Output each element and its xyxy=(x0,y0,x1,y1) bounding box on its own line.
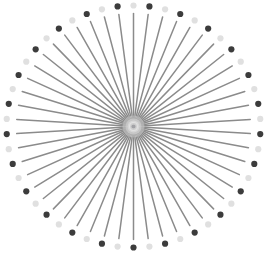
spoke-dot-light xyxy=(217,35,223,41)
spoke-dot-light xyxy=(146,243,152,249)
spoke-dot-dark xyxy=(43,212,49,218)
spoke-dot-light xyxy=(23,59,29,65)
spoke-dot-dark xyxy=(245,72,251,78)
spoke-dot-dark xyxy=(84,11,90,17)
spoke-dot-dark xyxy=(23,188,29,194)
spoke-dot-dark xyxy=(15,72,21,78)
spoke-dot-dark xyxy=(205,26,211,32)
spoke-dot-light xyxy=(130,2,136,8)
spoke-dot-light xyxy=(245,175,251,181)
spoke-dot-light xyxy=(56,221,62,227)
spoke-dot-light xyxy=(251,86,257,92)
spoke-dot-light xyxy=(257,116,263,122)
spoke-dot-dark xyxy=(99,241,105,247)
spoke-dot-light xyxy=(69,17,75,23)
spoke-dot-light xyxy=(114,243,120,249)
spoke-dot-dark xyxy=(251,161,257,167)
spoke-dot-light xyxy=(33,201,39,207)
spoke-dot-dark xyxy=(69,229,75,235)
spoke-dot-dark xyxy=(217,212,223,218)
spoke-dot-light xyxy=(84,236,90,242)
spoke-dot-light xyxy=(255,146,261,152)
center-convergence-dot xyxy=(131,124,135,128)
spoke-dot-dark xyxy=(255,101,261,107)
spoke-dot-light xyxy=(10,86,16,92)
spoke-dot-light xyxy=(6,146,12,152)
spoke-dot-dark xyxy=(177,11,183,17)
spoke-dot-dark xyxy=(33,46,39,52)
spoke-dot-dark xyxy=(228,46,234,52)
spoke-dot-light xyxy=(177,236,183,242)
spoke-dot-dark xyxy=(238,188,244,194)
spoke-dot-light xyxy=(238,59,244,65)
spoke-dot-dark xyxy=(10,161,16,167)
spoke-dot-light xyxy=(43,35,49,41)
spoke-dot-dark xyxy=(192,229,198,235)
spoke-dot-light xyxy=(4,116,10,122)
spoke-dot-dark xyxy=(130,244,136,250)
spoke-dot-dark xyxy=(162,241,168,247)
spoke-dot-light xyxy=(162,6,168,12)
spoke-dot-light xyxy=(15,175,21,181)
spoke-dot-light xyxy=(192,17,198,23)
spoke-dot-dark xyxy=(146,3,152,9)
spoke-dot-dark xyxy=(56,26,62,32)
spoke-dot-light xyxy=(99,6,105,12)
spoke-dot-dark xyxy=(114,3,120,9)
spoke-dot-dark xyxy=(257,131,263,137)
spoke-dot-dark xyxy=(4,131,10,137)
starburst-figure xyxy=(0,0,266,265)
spoke-dot-dark xyxy=(6,101,12,107)
starburst-svg xyxy=(0,0,266,265)
spoke-dot-light xyxy=(205,221,211,227)
spoke-dot-light xyxy=(228,201,234,207)
